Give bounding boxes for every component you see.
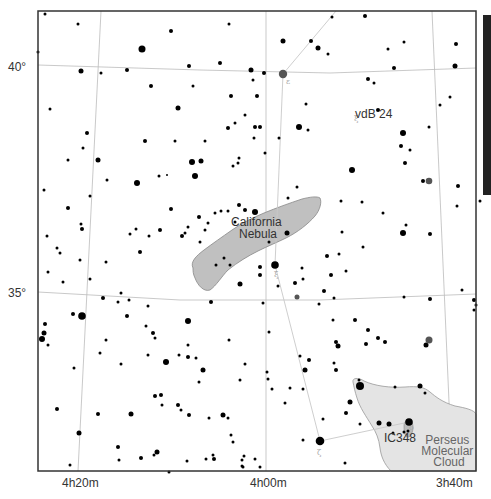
star (214, 212, 217, 215)
star (169, 207, 173, 211)
star (334, 340, 338, 344)
star (232, 165, 235, 168)
star (148, 235, 151, 238)
star (59, 252, 62, 255)
star (66, 206, 70, 210)
star (387, 422, 392, 427)
star (348, 400, 353, 405)
dec-label-40: 40° (8, 60, 26, 74)
star (366, 77, 370, 81)
star (120, 363, 123, 366)
star (187, 226, 190, 229)
star (262, 302, 265, 305)
star (79, 259, 82, 262)
star (209, 300, 213, 304)
star (62, 281, 65, 284)
star (258, 273, 262, 277)
star (169, 29, 173, 33)
star (383, 340, 387, 344)
star (421, 179, 425, 183)
star (229, 94, 233, 98)
star (289, 387, 292, 390)
star (180, 234, 184, 238)
star (55, 407, 59, 411)
star (403, 161, 407, 165)
star (296, 186, 299, 189)
star (232, 441, 235, 444)
star (79, 69, 84, 74)
star (197, 215, 201, 219)
star (255, 94, 259, 98)
star (73, 367, 76, 370)
star (363, 14, 367, 18)
star (223, 257, 226, 260)
star (101, 296, 105, 300)
star (302, 388, 305, 391)
star (418, 384, 423, 389)
star (105, 261, 108, 264)
star (268, 331, 271, 334)
star (43, 322, 47, 326)
star (454, 42, 458, 46)
star (479, 200, 482, 203)
star (117, 301, 120, 304)
star (449, 96, 452, 99)
star (473, 309, 476, 312)
star (176, 106, 181, 111)
star (207, 222, 210, 225)
star (212, 454, 215, 457)
star (46, 235, 49, 238)
star (258, 265, 262, 269)
star (333, 362, 336, 365)
star (403, 296, 406, 299)
star (96, 412, 100, 416)
star (230, 434, 233, 437)
star (336, 344, 341, 349)
star (39, 336, 45, 342)
ic348-label: IC348 (384, 431, 416, 445)
star (305, 103, 308, 106)
star (184, 232, 187, 235)
star (344, 411, 348, 415)
star (409, 149, 412, 152)
star (376, 336, 380, 340)
star (331, 16, 334, 19)
star (456, 205, 459, 208)
star (220, 210, 223, 213)
star (221, 413, 226, 418)
star (69, 464, 72, 467)
star (56, 247, 59, 250)
star (284, 402, 287, 405)
greek-letter-label: ε (286, 77, 290, 86)
star (345, 270, 348, 273)
star (253, 125, 257, 129)
star (334, 368, 338, 372)
star (349, 167, 355, 173)
star (243, 455, 246, 458)
star (253, 137, 256, 140)
star (424, 392, 427, 395)
vdb24-label: vdB 24 (355, 107, 393, 121)
star (307, 129, 310, 132)
star (153, 454, 156, 457)
star (139, 456, 143, 460)
star (341, 231, 344, 234)
star (259, 466, 262, 469)
star (85, 131, 89, 135)
star (332, 319, 335, 322)
star (277, 285, 280, 288)
star (201, 368, 206, 373)
star (49, 108, 52, 111)
star (205, 458, 208, 461)
star (344, 462, 347, 465)
star (318, 303, 321, 306)
star (302, 439, 305, 442)
star (158, 175, 161, 178)
star (71, 312, 75, 316)
star (249, 68, 254, 73)
star (158, 228, 162, 232)
star (147, 354, 150, 357)
star (303, 368, 308, 373)
star (316, 46, 321, 51)
greek-letter-label: ζ (317, 448, 322, 457)
